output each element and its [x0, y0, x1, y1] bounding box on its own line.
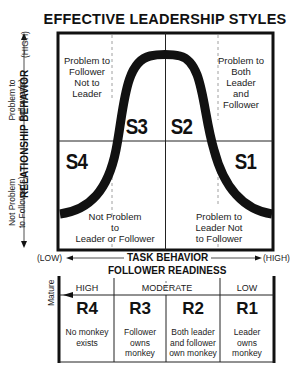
level-moderate: MODERATE — [114, 283, 220, 293]
note-s2: Problem to Both Leader and Follower — [212, 55, 270, 110]
note-s1: Problem to Leader Not to Follower — [184, 211, 254, 244]
note-s4: Not Problem to Leader or Follower — [70, 211, 160, 244]
x-axis-high: (HIGH) — [263, 253, 290, 263]
x-axis-low: (LOW) — [37, 253, 62, 263]
x-axis-left-arrow — [66, 256, 73, 261]
y-axis-high: (HIGH) — [20, 31, 30, 58]
readiness-title: FOLLOWER READINESS — [108, 265, 226, 276]
y-lower-note: Not Problem to Follower(s) — [7, 177, 27, 228]
readiness-desc-r4: No monkey exists — [60, 327, 114, 348]
readiness-code-r3: R3 — [114, 299, 166, 319]
style-label-s1: S1 — [235, 149, 256, 175]
readiness-side-label: Mature — [46, 280, 56, 306]
style-label-s2: S2 — [171, 114, 192, 140]
y-upper-note: Problem to Follower(s) — [7, 79, 27, 121]
level-low: LOW — [220, 283, 274, 293]
note-s3: Problem to Follower Not to Leader — [60, 55, 114, 99]
x-axis-label: TASK BEHAVIOR — [124, 252, 211, 263]
y-axis-down-arrow — [21, 241, 27, 248]
readiness-desc-r3: Follower owns monkey — [114, 327, 166, 359]
readiness-desc-r1: Leader owns monkey — [220, 327, 274, 359]
level-high: HIGH — [60, 283, 114, 293]
style-label-s3: S3 — [126, 114, 147, 140]
x-axis-right-arrow — [255, 256, 262, 261]
readiness-code-r1: R1 — [220, 299, 274, 319]
readiness-code-r4: R4 — [60, 299, 114, 319]
style-label-s4: S4 — [66, 149, 87, 175]
readiness-code-r2: R2 — [166, 299, 220, 319]
readiness-desc-r2: Both leader and follower own monkey — [166, 327, 220, 359]
